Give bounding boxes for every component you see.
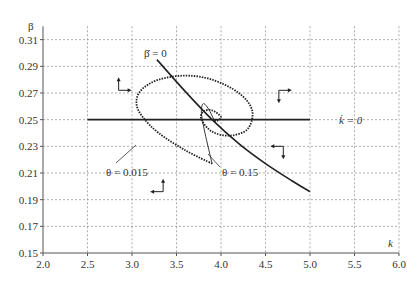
x-tick-label: 5.5 xyxy=(348,258,362,270)
y-tick-label: 0.17 xyxy=(19,220,39,232)
y-tick-label: 0.27 xyxy=(19,87,39,99)
x-tick-label: 4.0 xyxy=(214,258,228,270)
y-tick-label: 0.31 xyxy=(19,34,38,46)
arrowhead-icon xyxy=(288,88,292,92)
beta-dot-label: β̇ = 0 xyxy=(144,47,167,59)
x-axis-label: k xyxy=(388,237,394,249)
x-tick-label: 2.5 xyxy=(81,258,95,270)
y-tick-label: 0.19 xyxy=(19,194,39,206)
arrowhead-icon xyxy=(277,99,281,103)
arrowhead-icon xyxy=(150,190,154,194)
x-tick-label: 4.5 xyxy=(259,258,273,270)
y-tick-label: 0.29 xyxy=(19,60,39,72)
x-tick-label: 3.5 xyxy=(170,258,184,270)
theta-0015-label: θ = 0.015 xyxy=(106,166,148,178)
theta-015-label: θ = 0.15 xyxy=(222,166,259,178)
arrowhead-icon xyxy=(117,77,121,81)
y-tick-label: 0.21 xyxy=(19,167,38,179)
leader-theta-015 xyxy=(208,154,220,167)
x-tick-label: 2.0 xyxy=(36,258,50,270)
y-axis-label: β xyxy=(28,20,34,32)
arrowhead-icon xyxy=(281,155,285,159)
y-tick-label: 0.23 xyxy=(19,140,39,152)
grid-lines xyxy=(43,26,399,253)
arrowhead-icon xyxy=(128,88,132,92)
x-tick-label: 5.0 xyxy=(303,258,317,270)
x-tick-label: 6.0 xyxy=(392,258,406,270)
tick-labels: 0.150.170.190.210.230.250.270.290.312.02… xyxy=(19,34,407,270)
arrowhead-icon xyxy=(270,144,274,148)
arrowhead-icon xyxy=(161,179,165,183)
annotations: β k β̇ = 0 k̇ = 0 θ = 0.015 θ = 0.15 xyxy=(28,20,394,249)
y-tick-label: 0.25 xyxy=(19,114,39,126)
k-dot-label: k̇ = 0 xyxy=(339,114,363,126)
x-tick-label: 3.0 xyxy=(125,258,139,270)
phase-diagram: 0.150.170.190.210.230.250.270.290.312.02… xyxy=(0,0,420,287)
leader-theta-0015 xyxy=(116,145,136,163)
